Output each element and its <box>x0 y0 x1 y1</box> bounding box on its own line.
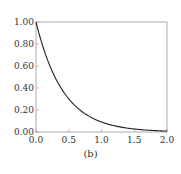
y-tick-label: 0.40 <box>14 83 34 93</box>
x-axis-ticks: 0.00.51.01.52.0 <box>29 129 175 145</box>
y-tick-label: 1.00 <box>14 17 34 27</box>
x-tick-label: 1.5 <box>127 135 142 145</box>
x-tick-label: 0.5 <box>62 135 77 145</box>
y-tick-label: 0.60 <box>14 61 34 71</box>
y-tick-label: 0.80 <box>14 39 34 49</box>
y-tick-label: 0.20 <box>14 105 34 115</box>
figure-caption: (b) <box>0 148 181 159</box>
data-line <box>36 22 167 131</box>
plot-frame <box>36 22 167 132</box>
y-axis-ticks: 0.000.200.400.600.801.00 <box>14 17 39 137</box>
x-tick-label: 2.0 <box>160 135 175 145</box>
x-tick-label: 1.0 <box>94 135 109 145</box>
x-tick-label: 0.0 <box>29 135 44 145</box>
